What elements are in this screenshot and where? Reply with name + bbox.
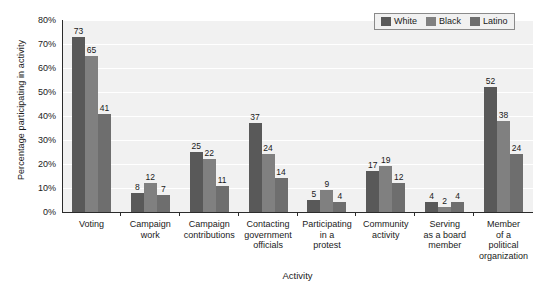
bar[interactable] — [366, 171, 379, 212]
bar-value-label: 25 — [191, 142, 200, 151]
bar[interactable] — [72, 37, 85, 212]
x-axis-tick-label-line: government — [240, 230, 297, 241]
x-axis-tick-mark — [120, 212, 121, 216]
bar[interactable] — [333, 202, 346, 212]
x-axis-tick-label-line: activity — [357, 230, 414, 241]
bar[interactable] — [98, 114, 111, 212]
bar-value-label: 12 — [394, 173, 403, 182]
bar-value-label: 17 — [368, 161, 377, 170]
legend-entry[interactable]: Latino — [470, 17, 508, 26]
bar[interactable] — [216, 186, 229, 212]
bar[interactable] — [85, 56, 98, 212]
bar-group: 736541 — [62, 20, 121, 212]
bar[interactable] — [425, 202, 438, 212]
bar-slot: 4 — [425, 20, 438, 212]
legend-entry[interactable]: Black — [426, 17, 461, 26]
x-axis-tick-label-line: in a — [299, 230, 356, 241]
bar-slot: 73 — [72, 20, 85, 212]
bar[interactable] — [249, 123, 262, 212]
x-axis-line — [62, 212, 533, 213]
bar-value-label: 19 — [381, 156, 390, 165]
y-axis-tick-label: 0% — [16, 208, 56, 217]
bar[interactable] — [203, 159, 216, 212]
bar-value-label: 9 — [325, 180, 330, 189]
bar[interactable] — [131, 193, 144, 212]
bar-slot: 8 — [131, 20, 144, 212]
bar[interactable] — [157, 195, 170, 212]
bar-group: 523824 — [474, 20, 533, 212]
bar[interactable] — [190, 152, 203, 212]
bar[interactable] — [438, 207, 451, 212]
bar-value-label: 52 — [486, 77, 495, 86]
bar[interactable] — [262, 154, 275, 212]
y-axis-tick-label: 40% — [16, 112, 56, 121]
x-axis-tick-label: Participatingin aprotest — [298, 219, 357, 261]
bar-value-label: 14 — [276, 168, 285, 177]
bar-slot: 22 — [203, 20, 216, 212]
x-axis-tick-label-line: Campaign — [181, 219, 238, 230]
bar[interactable] — [379, 166, 392, 212]
x-axis-tick-label-line: Member — [475, 219, 532, 230]
legend-entry[interactable]: White — [381, 17, 417, 26]
x-axis-tick-label: Campaigncontributions — [180, 219, 239, 261]
bar[interactable] — [144, 183, 157, 212]
bar[interactable] — [392, 183, 405, 212]
bar-value-label: 12 — [146, 173, 155, 182]
x-axis-tick-mark — [238, 212, 239, 216]
bar-slot: 24 — [510, 20, 523, 212]
bar-value-label: 37 — [250, 113, 259, 122]
bar-value-label: 11 — [218, 176, 227, 185]
bar-value-label: 5 — [312, 190, 317, 199]
bar[interactable] — [320, 190, 333, 212]
bar-chart: Percentage participating in activity 0%1… — [0, 0, 542, 292]
bar-slot: 12 — [144, 20, 157, 212]
bar[interactable] — [275, 178, 288, 212]
bar-slot: 4 — [333, 20, 346, 212]
x-axis-tick-label-line: of a — [475, 230, 532, 241]
x-axis-tick-label-line: Serving — [416, 219, 473, 230]
bar[interactable] — [307, 200, 320, 212]
bar[interactable] — [451, 202, 464, 212]
x-axis-tick-label: Voting — [62, 219, 121, 261]
bar-slot: 25 — [190, 20, 203, 212]
bar-slot: 11 — [216, 20, 229, 212]
legend-swatch-icon — [470, 17, 480, 26]
bar[interactable] — [510, 154, 523, 212]
bar-group: 372414 — [239, 20, 298, 212]
x-axis-tick-mark — [179, 212, 180, 216]
bar-groups-layer: 7365418127252211372414594171912424523824 — [62, 20, 533, 212]
bar-value-label: 24 — [263, 144, 272, 153]
bar-slot: 5 — [307, 20, 320, 212]
x-axis-tick-label: Communityactivity — [356, 219, 415, 261]
bar-slot: 41 — [98, 20, 111, 212]
x-axis-tick-label: Contactinggovernmentofficials — [239, 219, 298, 261]
x-axis-tick-mark — [473, 212, 474, 216]
legend-swatch-icon — [381, 17, 391, 26]
y-axis-tick-label: 20% — [16, 160, 56, 169]
y-axis-tick-label: 10% — [16, 184, 56, 193]
bar-slot: 14 — [275, 20, 288, 212]
bar[interactable] — [497, 121, 510, 212]
legend-label: Black — [439, 17, 461, 26]
bar-value-label: 22 — [204, 149, 213, 158]
x-axis-tick-label-line: contributions — [181, 230, 238, 241]
bar-slot: 38 — [497, 20, 510, 212]
x-axis-tick-label-line: Campaign — [122, 219, 179, 230]
bar-value-label: 24 — [512, 144, 521, 153]
x-axis-tick-label-line: work — [122, 230, 179, 241]
x-axis-tick-label-line: officials — [240, 240, 297, 251]
x-axis-tick-mark — [297, 212, 298, 216]
x-axis-tick-label-line: as a board — [416, 230, 473, 241]
y-axis-tick-label: 80% — [16, 16, 56, 25]
x-axis-title: Activity — [62, 270, 533, 281]
x-axis-tick-label-line: protest — [299, 240, 356, 251]
y-axis-tick-label: 70% — [16, 40, 56, 49]
bar-value-label: 41 — [100, 104, 109, 113]
bar-slot: 37 — [249, 20, 262, 212]
bar[interactable] — [484, 87, 497, 212]
bar-slot: 17 — [366, 20, 379, 212]
bar-group: 594 — [298, 20, 357, 212]
bar-group: 8127 — [121, 20, 180, 212]
y-axis-tick-label: 50% — [16, 88, 56, 97]
legend-label: White — [394, 17, 417, 26]
